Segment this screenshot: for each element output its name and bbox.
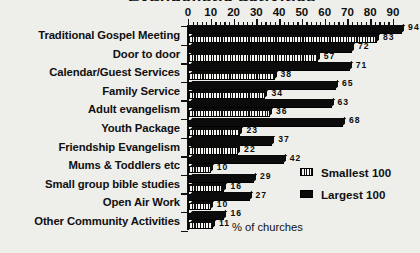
category-axis-tick: [181, 26, 188, 27]
value-axis: 0102030405060708090: [188, 0, 394, 26]
bar-top-edge: [190, 174, 258, 177]
bar-end-cap: [264, 89, 267, 99]
bar-end-cap: [253, 172, 256, 182]
category-label: Traditional Gospel Meeting: [0, 26, 184, 45]
bar-smallest-100: [188, 129, 240, 136]
bar-largest-100: [188, 27, 402, 34]
category-axis-tick: [181, 175, 188, 176]
bar-top-edge: [190, 136, 276, 139]
bar-group: 7257: [188, 45, 400, 64]
category-label: Calendar/Guest Services: [0, 63, 184, 82]
category-label: Friendship Evangelism: [0, 138, 184, 157]
category-label: Open Air Work: [0, 193, 184, 212]
category-axis-tick: [181, 138, 188, 139]
bar-end-cap: [342, 117, 345, 127]
category-axis-labels: Traditional Gospel MeetingDoor to doorCa…: [0, 26, 184, 231]
category-label: Youth Package: [0, 119, 184, 138]
bar-value-smallest: 10: [217, 163, 229, 172]
bar-value-smallest: 57: [324, 52, 336, 61]
bar-value-largest: 68: [349, 116, 361, 125]
bar-top-edge: [190, 25, 406, 28]
category-label: Door to door: [0, 45, 184, 64]
legend: Smallest 100 Largest 100: [300, 163, 391, 207]
bar-smallest-100: [188, 91, 265, 98]
bar-value-smallest: 36: [276, 107, 288, 116]
axis-tick-label: 70: [341, 6, 354, 18]
bar-value-largest: 72: [358, 42, 370, 51]
bar-end-cap: [249, 191, 252, 201]
axis-tick-label: 50: [295, 6, 308, 18]
category-axis-tick: [181, 63, 188, 64]
bar-value-smallest: 10: [217, 200, 229, 209]
bar-end-cap: [331, 98, 334, 108]
bar-smallest-100: [188, 54, 318, 61]
bar-largest-100: [188, 82, 336, 89]
bar-largest-100: [188, 175, 254, 182]
axis-tick-label: 60: [318, 6, 331, 18]
bar-top-edge: [190, 90, 269, 93]
bar-end-cap: [212, 219, 215, 229]
category-axis-tick: [181, 193, 188, 194]
bar-smallest-100: [188, 166, 211, 173]
bar-smallest-100: [188, 73, 275, 80]
bar-largest-100: [188, 120, 343, 127]
bar-value-largest: 16: [230, 209, 242, 218]
axis-tick-label: 20: [227, 6, 240, 18]
bar-top-edge: [190, 192, 253, 195]
bar-top-edge: [190, 81, 340, 84]
bar-end-cap: [271, 135, 274, 145]
bar-end-cap: [210, 163, 213, 173]
bar-group: 6823: [188, 119, 400, 138]
bar-value-smallest: 83: [383, 33, 395, 42]
bar-value-smallest: 38: [281, 70, 293, 79]
bar-top-edge: [190, 43, 356, 46]
bar-end-cap: [376, 33, 379, 43]
bar-end-cap: [210, 200, 213, 210]
bar-value-largest: 65: [342, 79, 354, 88]
bar-end-cap: [283, 154, 286, 164]
bar-top-edge: [190, 52, 322, 55]
bar-end-cap: [349, 61, 352, 71]
bar-smallest-100: [188, 110, 270, 117]
bar-value-smallest: 22: [244, 145, 256, 154]
legend-swatch-largest-icon: [300, 190, 313, 198]
bar-smallest-100: [188, 222, 213, 229]
bar-top-edge: [190, 62, 354, 65]
bar-top-edge: [190, 145, 242, 148]
category-axis-tick: [181, 231, 188, 232]
x-axis-title: % of churches: [232, 221, 303, 233]
legend-label-largest: Largest 100: [321, 188, 385, 201]
bar-value-smallest: 16: [230, 182, 242, 191]
bar-top-edge: [190, 34, 381, 37]
axis-tick-label: 80: [364, 6, 377, 18]
bar-top-edge: [190, 99, 335, 102]
category-label: Adult evangelism: [0, 100, 184, 119]
category-axis-tick: [181, 82, 188, 83]
category-axis-tick: [181, 156, 188, 157]
bar-top-edge: [190, 71, 278, 74]
category-label: Small group bible studies: [0, 175, 184, 194]
legend-label-smallest: Smallest 100: [321, 166, 391, 179]
bar-smallest-100: [188, 147, 238, 154]
bar-end-cap: [351, 42, 354, 52]
category-axis-tick: [181, 119, 188, 120]
axis-tick-label: 40: [273, 6, 286, 18]
legend-item-largest: Largest 100: [300, 185, 391, 203]
category-axis-tick: [181, 100, 188, 101]
category-axis-tick: [181, 45, 188, 46]
bar-smallest-100: [188, 203, 211, 210]
axis-tick-label: 0: [185, 6, 191, 18]
bar-top-edge: [190, 108, 274, 111]
category-axis-tick: [181, 212, 188, 213]
bar-end-cap: [239, 126, 242, 136]
bar-value-largest: 71: [356, 61, 368, 70]
bar-end-cap: [269, 107, 272, 117]
bar-end-cap: [317, 51, 320, 61]
category-label: Mums & Toddlers etc: [0, 156, 184, 175]
axis-tick-label: 10: [204, 6, 217, 18]
bar-value-smallest: 11: [219, 219, 230, 228]
bar-end-cap: [223, 181, 226, 191]
bar-group: 7138: [188, 63, 400, 82]
bar-group: 6336: [188, 100, 400, 119]
